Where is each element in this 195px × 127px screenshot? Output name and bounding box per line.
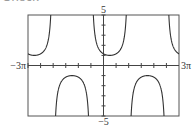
x-max-label: 3π <box>181 60 191 71</box>
x-min-label: −3π <box>10 60 26 71</box>
y-min-label: −5 <box>98 116 109 127</box>
y-max-label: 5 <box>101 4 106 15</box>
secant-plot: 5 −5 −3π 3π <box>0 0 195 127</box>
